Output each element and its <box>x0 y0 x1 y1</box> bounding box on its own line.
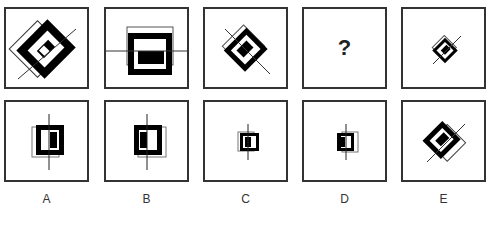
option-panel-a[interactable] <box>4 100 89 182</box>
option-panel-e[interactable] <box>401 100 486 182</box>
option-label-d: D <box>302 192 387 206</box>
question-mark: ? <box>304 9 385 87</box>
rotated-square-figure-icon <box>403 9 484 87</box>
option-label-c: C <box>203 192 288 206</box>
upright-square-figure-icon <box>304 102 385 180</box>
sequence-panel-2 <box>104 7 189 89</box>
clipped-instruction-text <box>0 0 493 3</box>
upright-square-figure-icon <box>106 102 187 180</box>
rotated-square-figure-icon <box>205 9 286 87</box>
rotated-square-figure-icon <box>6 9 87 87</box>
option-label-a: A <box>4 192 89 206</box>
upright-square-figure-icon <box>205 102 286 180</box>
sequence-panel-3 <box>203 7 288 89</box>
option-panel-c[interactable] <box>203 100 288 182</box>
sequence-panel-1 <box>4 7 89 89</box>
rotated-square-figure-icon <box>403 102 484 180</box>
option-label-b: B <box>104 192 189 206</box>
option-panel-b[interactable] <box>104 100 189 182</box>
upright-square-figure-icon <box>106 9 187 87</box>
sequence-panel-5 <box>401 7 486 89</box>
upright-square-figure-icon <box>6 102 87 180</box>
option-label-e: E <box>401 192 486 206</box>
option-panel-d[interactable] <box>302 100 387 182</box>
sequence-panel-4-missing: ? <box>302 7 387 89</box>
